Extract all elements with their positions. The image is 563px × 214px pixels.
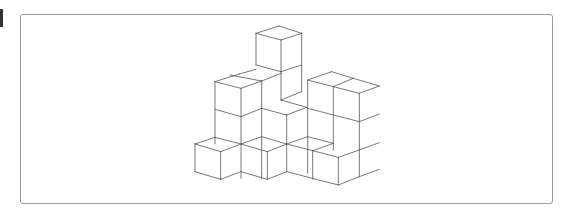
left-edge-marker <box>0 9 3 27</box>
cube-stack-figure <box>180 20 400 210</box>
